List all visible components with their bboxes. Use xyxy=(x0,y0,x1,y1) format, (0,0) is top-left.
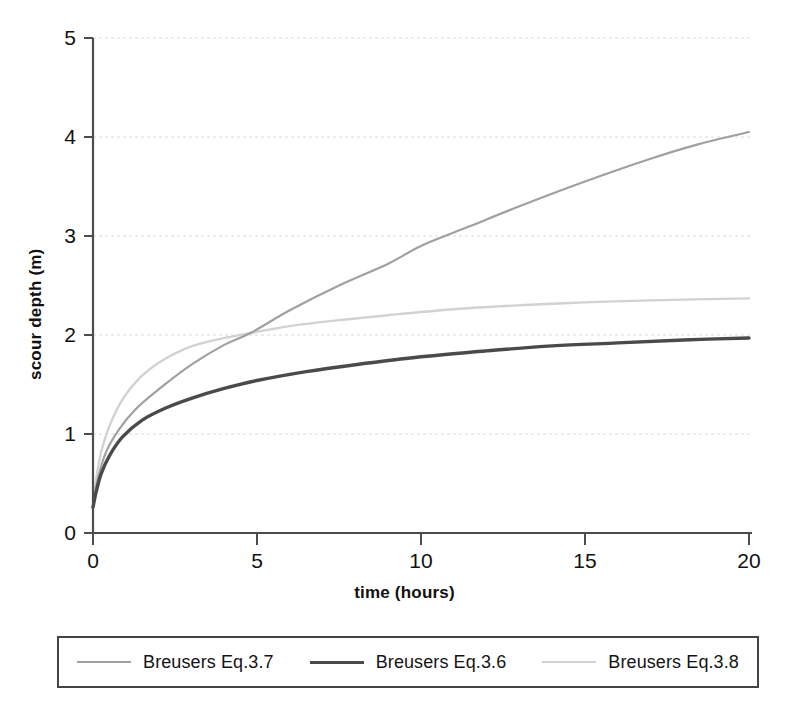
legend-label-eq36: Breusers Eq.3.6 xyxy=(376,652,507,673)
scour-depth-chart-figure: 5 4 3 2 1 0 0 5 10 15 20 scour depth (m)… xyxy=(0,0,809,720)
legend-line-swatch-eq36 xyxy=(310,661,364,664)
x-tick-label-15: 15 xyxy=(565,550,605,571)
x-tick-label-5: 5 xyxy=(237,550,277,571)
x-tick-label-10: 10 xyxy=(401,550,441,571)
legend-item-eq36[interactable]: Breusers Eq.3.6 xyxy=(306,652,511,673)
y-tick-label-0: 0 xyxy=(42,522,76,543)
y-axis-title: scour depth (m) xyxy=(26,249,46,380)
x-axis-title: time (hours) xyxy=(0,583,809,603)
y-tick-label-1: 1 xyxy=(42,423,76,444)
legend-line-swatch-eq37 xyxy=(77,661,131,663)
plot-canvas xyxy=(0,0,809,720)
series-line-breusers-eq-3-6 xyxy=(93,338,749,507)
x-tick-label-0: 0 xyxy=(73,550,113,571)
data-series-group xyxy=(93,132,749,507)
x-tick-label-20: 20 xyxy=(729,550,769,571)
gridlines xyxy=(93,38,752,434)
y-tick-label-5: 5 xyxy=(42,27,76,48)
axis-lines xyxy=(93,38,752,533)
legend-item-eq37[interactable]: Breusers Eq.3.7 xyxy=(73,652,278,673)
y-tick-label-2: 2 xyxy=(42,324,76,345)
y-tick-label-4: 4 xyxy=(42,126,76,147)
legend-item-eq38[interactable]: Breusers Eq.3.8 xyxy=(538,652,743,673)
chart-legend: Breusers Eq.3.7 Breusers Eq.3.6 Breusers… xyxy=(57,636,759,688)
legend-label-eq38: Breusers Eq.3.8 xyxy=(608,652,739,673)
legend-label-eq37: Breusers Eq.3.7 xyxy=(143,652,274,673)
legend-line-swatch-eq38 xyxy=(542,661,596,663)
y-tick-label-3: 3 xyxy=(42,225,76,246)
x-axis-ticks xyxy=(93,533,749,545)
series-line-breusers-eq-3-8 xyxy=(93,298,749,506)
series-line-breusers-eq-3-7 xyxy=(93,132,749,506)
y-axis-ticks xyxy=(84,38,93,533)
